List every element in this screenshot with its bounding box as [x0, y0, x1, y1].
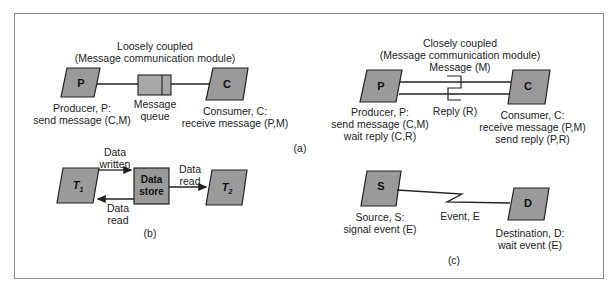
- panel-c-label: (c): [444, 254, 464, 266]
- destination-letter: D: [516, 197, 540, 209]
- source-label: Source, S:signal event (E): [340, 211, 420, 235]
- loose-producer-letter: P: [70, 77, 92, 89]
- loose-subtitle: (Message communication module): [70, 52, 240, 64]
- close-subtitle: (Message communication module): [375, 49, 545, 61]
- data-written-label: Datawritten: [95, 146, 135, 170]
- close-coupling-connector: [399, 76, 511, 100]
- loose-title: Loosely coupled: [80, 40, 230, 52]
- close-consumer-letter: C: [517, 80, 539, 92]
- panel-a-label: (a): [290, 142, 310, 154]
- t2-letter: T2: [215, 181, 239, 195]
- loose-consumer-letter: C: [216, 78, 238, 90]
- close-consumer-label: Consumer, C:receive message (P,M)send re…: [470, 109, 595, 145]
- message-label: Message (M): [410, 61, 510, 73]
- destination-label: Destination, D:wait event (E): [490, 227, 570, 251]
- close-title: Closely coupled: [390, 37, 530, 49]
- close-producer-letter: P: [370, 80, 392, 92]
- t1-letter: T1: [66, 179, 90, 193]
- close-producer-label: Producer, P:send message (C,M)wait reply…: [320, 106, 440, 142]
- event-label: Event, E: [420, 210, 500, 222]
- data-read-back-label: Dataread: [98, 202, 138, 226]
- consumer-label: Consumer, C:receive message (P,M): [180, 105, 290, 129]
- panel-b-label: (b): [140, 227, 160, 239]
- producer-label: Producer, P:send message (C,M): [22, 102, 142, 126]
- data-store-text: Datastore: [134, 174, 169, 198]
- queue-label: Messagequeue: [125, 98, 185, 122]
- source-letter: S: [370, 180, 392, 192]
- event-lightning-link: [397, 190, 510, 203]
- data-read-label: Dataread: [170, 163, 210, 187]
- message-queue-icon: [138, 75, 171, 95]
